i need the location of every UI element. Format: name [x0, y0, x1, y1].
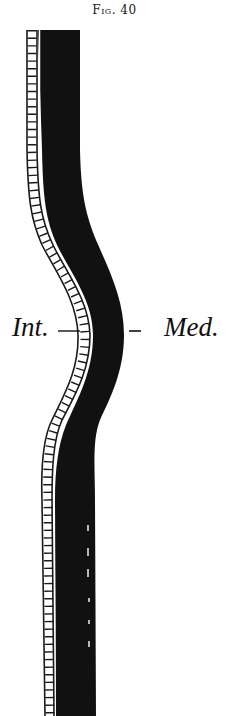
medial-label: Med. — [164, 314, 219, 341]
tissue-section-diagram — [0, 0, 229, 716]
dark-band — [38, 30, 124, 716]
internal-label: Int. — [12, 314, 49, 341]
